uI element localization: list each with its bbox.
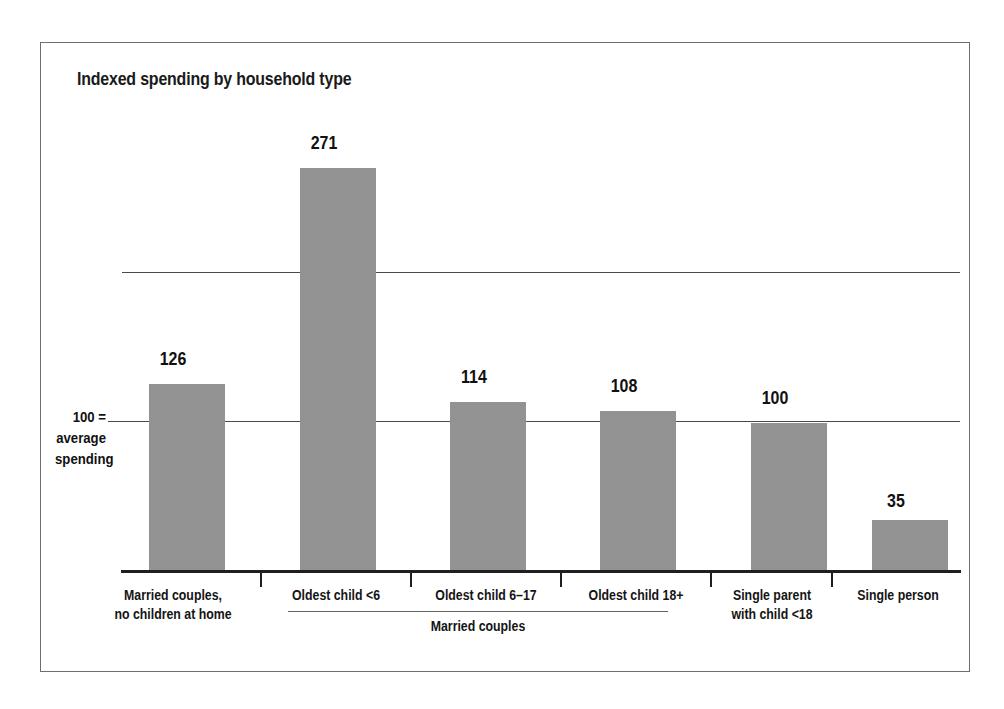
- reference-line-annotation: 100 = average spending: [55, 406, 106, 469]
- bar-oldest-child-under-6: [300, 168, 376, 572]
- bar-value-271: 271: [279, 132, 368, 154]
- plot-area: [122, 110, 960, 572]
- reference-line-text-1: average: [55, 427, 106, 448]
- category-line: Married couples,: [107, 586, 240, 605]
- category-label-single-parent: Single parent with child <18: [721, 586, 823, 624]
- reference-line-value: 100 =: [55, 406, 106, 427]
- bar-value-114: 114: [429, 366, 518, 388]
- bar-value-126: 126: [128, 348, 217, 370]
- gridline-200: [122, 272, 960, 273]
- reference-line-text-2: spending: [55, 448, 106, 469]
- category-label-single-person: Single person: [847, 586, 949, 605]
- group-bracket-label: Married couples: [317, 618, 640, 634]
- group-bracket-line: [288, 611, 668, 612]
- axis-tick-1: [260, 572, 262, 587]
- category-line: with child <18: [721, 605, 823, 624]
- category-line: Oldest child 18+: [574, 586, 698, 605]
- bar-oldest-child-18-plus: [600, 411, 676, 572]
- category-label-oldest-child-6-17: Oldest child 6–17: [424, 586, 548, 605]
- axis-tick-4: [710, 572, 712, 587]
- bar-single-parent: [751, 423, 827, 572]
- bar-oldest-child-6-17: [450, 402, 526, 572]
- category-line: Oldest child <6: [274, 586, 398, 605]
- reference-line-leader: [108, 421, 124, 422]
- bar-value-35: 35: [851, 490, 940, 512]
- axis-tick-3: [560, 572, 562, 587]
- axis-tick-5: [831, 572, 833, 587]
- category-label-oldest-child-18-plus: Oldest child 18+: [574, 586, 698, 605]
- bar-married-no-children: [149, 384, 225, 572]
- category-line: Single parent: [721, 586, 823, 605]
- chart-figure: Indexed spending by household type 126 2…: [0, 0, 1004, 709]
- category-label-married-no-children: Married couples, no children at home: [107, 586, 240, 624]
- gridline-100: [122, 421, 960, 422]
- axis-tick-2: [410, 572, 412, 587]
- bar-value-100: 100: [730, 387, 819, 409]
- category-line: no children at home: [107, 605, 240, 624]
- axis-baseline: [121, 570, 961, 573]
- bar-single-person: [872, 520, 948, 572]
- bar-value-108: 108: [579, 375, 668, 397]
- chart-title: Indexed spending by household type: [77, 68, 351, 90]
- category-label-oldest-child-under-6: Oldest child <6: [274, 586, 398, 605]
- category-line: Oldest child 6–17: [424, 586, 548, 605]
- category-line: Single person: [847, 586, 949, 605]
